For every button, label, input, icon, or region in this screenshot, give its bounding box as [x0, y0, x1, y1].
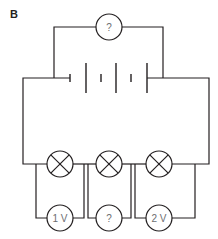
voltmeter-3-label: 2 V: [151, 213, 166, 224]
lamp-1: [47, 151, 73, 177]
voltmeter-2-label: ?: [106, 213, 112, 224]
voltmeter-3: 2 V: [146, 205, 172, 231]
figure-label: B: [10, 8, 18, 20]
top-meter-label: ?: [106, 22, 112, 33]
lamp-3: [146, 151, 172, 177]
voltmeter-1-label: 1 V: [52, 213, 67, 224]
battery: [70, 63, 147, 93]
lamp-2: [96, 151, 122, 177]
voltmeter-2: ?: [96, 205, 122, 231]
top-meter: ?: [96, 14, 122, 40]
circuit-diagram: B ?: [0, 0, 218, 239]
voltmeter-1: 1 V: [47, 205, 73, 231]
